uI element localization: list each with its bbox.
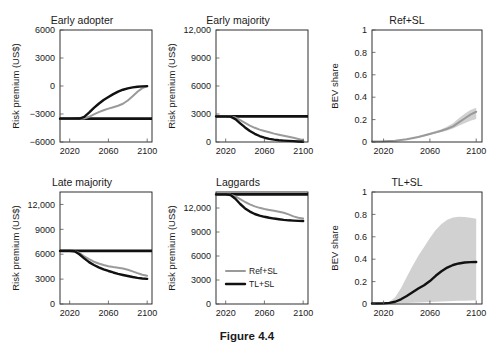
- panel-early-majority: Early majority 2020206021000300060009000…: [162, 14, 314, 172]
- panel-title: Ref+SL: [326, 14, 488, 26]
- y-axis-title: Risk premium (US$): [10, 43, 21, 129]
- y-tick-label: 9000: [35, 225, 55, 235]
- panel-title: TL+SL: [326, 176, 488, 188]
- y-axis-title: BEV share: [329, 225, 340, 270]
- x-tick-label: 2060: [98, 146, 118, 156]
- y-tick-label: 0.8: [354, 48, 367, 58]
- uncertainty-band: [372, 217, 476, 304]
- y-tick-label: 12,000: [183, 203, 211, 213]
- y-tick-label: 0: [362, 299, 367, 309]
- figure-4-4: Early adopter 202020602100−6000−30000300…: [0, 0, 494, 350]
- x-tick-label: 2020: [374, 146, 394, 156]
- plot-frame: [60, 192, 152, 304]
- series-ref-sl: [60, 86, 147, 118]
- panel-ref-sl-share: Ref+SL 20202060210000.20.40.60.81BEV sha…: [326, 14, 488, 172]
- plot-frame: [372, 30, 482, 142]
- panel-tl-sl-share: TL+SL 20202060210000.20.40.60.81BEV shar…: [326, 176, 488, 334]
- x-tick-label: 2020: [60, 308, 80, 318]
- x-tick-label: 2060: [420, 308, 440, 318]
- chart-ref-sl-share: 20202060210000.20.40.60.81BEV share: [326, 14, 488, 172]
- y-tick-label: 12,000: [27, 200, 55, 210]
- plot-frame: [216, 30, 308, 142]
- series-ref-sl: [60, 251, 147, 276]
- panel-laggards: Laggards 202020602100030006000900012,000…: [162, 176, 314, 334]
- y-tick-label: 0: [50, 81, 55, 91]
- panel-early-adopter: Early adopter 202020602100−6000−30000300…: [6, 14, 158, 172]
- y-tick-label: 1: [362, 187, 367, 197]
- y-tick-label: 1: [362, 25, 367, 35]
- y-tick-label: 0: [362, 137, 367, 147]
- x-tick-label: 2060: [254, 146, 274, 156]
- y-tick-label: 0.6: [354, 70, 367, 80]
- y-tick-label: 0.4: [354, 254, 367, 264]
- y-tick-label: 0.2: [354, 115, 367, 125]
- y-tick-label: 3000: [191, 275, 211, 285]
- figure-caption: Figure 4.4: [0, 330, 494, 342]
- x-tick-label: 2060: [420, 146, 440, 156]
- chart-early-majority: 202020602100030006000900012,000Risk prem…: [162, 14, 314, 172]
- y-axis-title: Risk premium (US$): [10, 205, 21, 291]
- uncertainty-band: [372, 108, 476, 142]
- series-tl-sl: [60, 86, 147, 119]
- y-tick-label: 6000: [35, 249, 55, 259]
- x-tick-label: 2100: [293, 308, 313, 318]
- y-tick-label: 9000: [191, 227, 211, 237]
- panel-title: Early adopter: [6, 14, 158, 26]
- y-tick-label: 0.6: [354, 232, 367, 242]
- y-tick-label: 6000: [191, 81, 211, 91]
- x-tick-label: 2100: [137, 308, 157, 318]
- y-tick-label: 12,000: [183, 25, 211, 35]
- legend-label-tl-sl: TL+SL: [249, 279, 275, 289]
- x-tick-label: 2100: [466, 146, 486, 156]
- y-tick-label: 0.4: [354, 92, 367, 102]
- chart-laggards: 202020602100030006000900012,000Risk prem…: [162, 176, 314, 334]
- y-tick-label: 0: [50, 299, 55, 309]
- panel-title: Laggards: [162, 176, 314, 188]
- legend-label-ref-sl: Ref+SL: [249, 266, 278, 276]
- x-tick-label: 2060: [254, 308, 274, 318]
- x-tick-label: 2060: [98, 308, 118, 318]
- chart-tl-sl-share: 20202060210000.20.40.60.81BEV share: [326, 176, 488, 334]
- x-tick-label: 2100: [466, 308, 486, 318]
- y-axis-title: Risk premium (US$): [166, 205, 177, 291]
- y-axis-title: BEV share: [329, 63, 340, 108]
- x-tick-label: 2020: [216, 308, 236, 318]
- y-tick-label: −3000: [30, 109, 55, 119]
- panel-late-majority: Late majority 20202060210003000600090001…: [6, 176, 158, 334]
- y-tick-label: 6000: [35, 25, 55, 35]
- y-axis-title: Risk premium (US$): [166, 43, 177, 129]
- y-tick-label: 3000: [35, 274, 55, 284]
- y-tick-label: 3000: [191, 109, 211, 119]
- y-tick-label: 0: [206, 299, 211, 309]
- chart-early-adopter: 202020602100−6000−3000030006000Risk prem…: [6, 14, 158, 172]
- y-tick-label: 0.8: [354, 210, 367, 220]
- y-tick-label: 6000: [191, 251, 211, 261]
- y-tick-label: −6000: [30, 137, 55, 147]
- panel-title: Late majority: [6, 176, 158, 188]
- y-tick-label: 9000: [191, 53, 211, 63]
- x-tick-label: 2020: [216, 146, 236, 156]
- x-tick-label: 2100: [137, 146, 157, 156]
- x-tick-label: 2100: [293, 146, 313, 156]
- y-tick-label: 3000: [35, 53, 55, 63]
- y-tick-label: 0: [206, 137, 211, 147]
- series-ref-sl: [372, 112, 476, 142]
- panel-title: Early majority: [162, 14, 314, 26]
- chart-late-majority: 202020602100030006000900012,000Risk prem…: [6, 176, 158, 334]
- x-tick-label: 2020: [374, 308, 394, 318]
- x-tick-label: 2020: [60, 146, 80, 156]
- y-tick-label: 0.2: [354, 277, 367, 287]
